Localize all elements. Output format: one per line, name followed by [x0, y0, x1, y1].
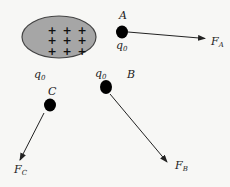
point-c-label: C: [48, 85, 57, 98]
charged-body: + + + + + + + + +: [22, 16, 96, 58]
force-arrow-a: [128, 32, 205, 39]
point-c: C FC: [13, 85, 57, 177]
q0-b-label: q0: [95, 67, 107, 81]
q0-left-label: q0: [34, 68, 46, 82]
point-b: q0 B FB: [95, 67, 188, 173]
force-b-label: FB: [174, 159, 188, 173]
point-a-label: A: [118, 9, 127, 22]
plus-sign: +: [77, 45, 86, 58]
plus-sign: +: [47, 45, 56, 58]
q0-a-label: q0: [116, 39, 128, 53]
positive-charges: + + + + + + + + +: [47, 24, 86, 58]
point-a: A q0 FA: [116, 9, 224, 53]
test-charge-c: [44, 99, 56, 112]
force-c-label: FC: [13, 163, 28, 177]
test-charge-a: [116, 26, 128, 39]
force-arrow-c: [20, 113, 44, 160]
test-charge-b: [100, 80, 112, 94]
force-arrow-b: [110, 94, 167, 162]
point-b-label: B: [126, 68, 135, 81]
electric-field-diagram: + + + + + + + + + q0 A q0 FA q0 B FB C F…: [0, 0, 230, 187]
plus-sign: +: [62, 45, 71, 58]
force-a-label: FA: [210, 35, 224, 49]
